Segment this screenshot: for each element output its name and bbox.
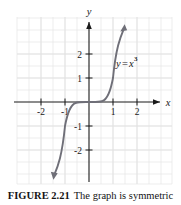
cartesian-plot: -2 -1 1 2 2 1 -1 -2 x y xyxy=(0,0,181,186)
figure-container: -2 -1 1 2 2 1 -1 -2 x y y=x3 FIGURE 2.21… xyxy=(0,0,181,205)
curve-equation-label: y=x3 xyxy=(116,56,138,69)
ytick-label-neg1: -1 xyxy=(74,122,82,132)
figure-caption-text: The graph is symmetric xyxy=(74,190,173,201)
figure-number: FIGURE 2.21 xyxy=(8,190,70,201)
ytick-label-neg2: -2 xyxy=(74,146,82,156)
ytick-label-pos1: 1 xyxy=(77,74,82,84)
ytick-label-pos2: 2 xyxy=(77,50,82,60)
y-axis-label: y xyxy=(86,6,92,17)
curve-label-equals: = xyxy=(121,58,129,69)
curve-label-exponent: 3 xyxy=(134,55,138,63)
figure-caption: FIGURE 2.21The graph is symmetric xyxy=(0,186,181,205)
xtick-label-neg2: -2 xyxy=(37,107,45,117)
xtick-label-pos1: 1 xyxy=(111,107,116,117)
x-axis-label: x xyxy=(165,97,171,108)
xtick-label-pos2: 2 xyxy=(135,107,140,117)
plot-area: -2 -1 1 2 2 1 -1 -2 x y xyxy=(0,0,181,186)
